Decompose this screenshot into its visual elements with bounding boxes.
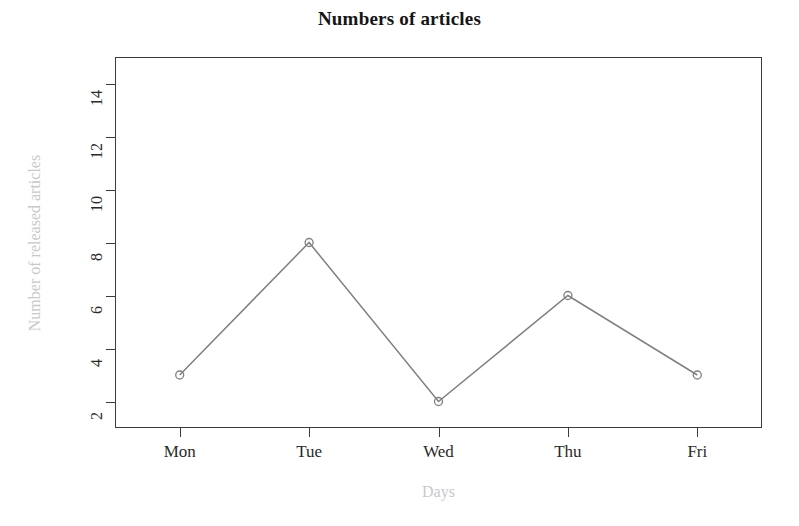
y-axis-title-label: Number of released articles xyxy=(26,154,44,330)
y-tick-label: 8 xyxy=(88,242,106,272)
x-tick-label: Wed xyxy=(423,442,454,462)
data-line xyxy=(180,243,698,402)
y-tick-label: 6 xyxy=(88,295,106,325)
x-tick-mark xyxy=(439,428,440,437)
x-tick-label: Mon xyxy=(164,442,196,462)
chart-title: Numbers of articles xyxy=(0,8,799,30)
y-tick-mark xyxy=(106,190,115,191)
data-markers xyxy=(176,239,702,406)
x-tick-mark xyxy=(568,428,569,437)
y-axis-title: Number of released articles xyxy=(22,57,48,428)
y-tick-mark xyxy=(106,243,115,244)
x-tick-mark xyxy=(697,428,698,437)
y-tick-mark xyxy=(106,402,115,403)
y-tick-label: 2 xyxy=(88,401,106,431)
x-tick-label: Tue xyxy=(296,442,322,462)
y-tick-label: 10 xyxy=(88,189,106,219)
y-tick-label: 4 xyxy=(88,348,106,378)
chart-figure: Numbers of articles Number of released a… xyxy=(0,0,799,526)
y-tick-mark xyxy=(106,349,115,350)
y-tick-mark xyxy=(106,137,115,138)
y-tick-mark xyxy=(106,84,115,85)
y-tick-label: 12 xyxy=(88,136,106,166)
x-tick-label: Fri xyxy=(687,442,707,462)
x-axis-title: Days xyxy=(115,483,762,501)
x-tick-label: Thu xyxy=(554,442,581,462)
x-tick-mark xyxy=(180,428,181,437)
y-tick-mark xyxy=(106,296,115,297)
plot-area: 2468101214 MonTueWedThuFri xyxy=(115,57,762,428)
x-tick-mark xyxy=(309,428,310,437)
y-tick-label: 14 xyxy=(88,83,106,113)
data-series-svg xyxy=(115,57,762,428)
